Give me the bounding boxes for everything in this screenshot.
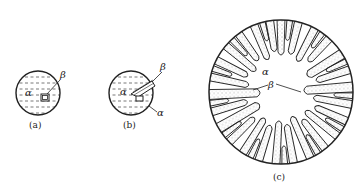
caption-a: (a) [29,120,41,130]
grain-a-boundary [16,71,60,115]
dendrite-arms [207,18,355,166]
panel-c: α β (c) [207,18,355,182]
label-beta-c: β [267,79,274,90]
caption-b: (b) [123,120,136,130]
panel-a: β α (a) [14,69,66,130]
label-beta-a: β [59,69,66,80]
label-alpha-b-outer: α [157,107,164,118]
label-alpha-c: α [262,66,269,77]
panel-b: β α α (b) [107,61,166,130]
phase-transformation-figure: β α (a) β α α (b) [0,0,363,184]
label-beta-b: β [159,61,166,72]
beta-nucleus-a [41,94,49,101]
grain-b-boundary [109,71,153,115]
label-alpha-a: α [25,87,32,98]
label-alpha-b-inner: α [120,86,127,97]
caption-c: (c) [273,172,285,182]
